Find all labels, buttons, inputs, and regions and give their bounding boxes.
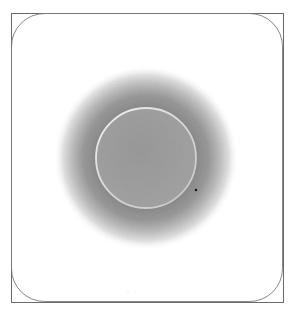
speck <box>136 292 137 293</box>
figure-drawing <box>0 0 295 317</box>
dark-spot <box>195 189 198 192</box>
speck <box>127 290 128 291</box>
